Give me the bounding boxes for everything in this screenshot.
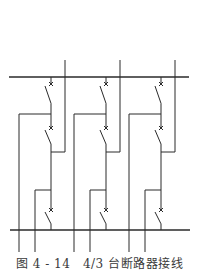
circuit-breaker-3 <box>100 203 108 230</box>
circuit-breaker-3 <box>155 203 163 230</box>
feeder-line-lower <box>145 190 161 252</box>
figure-caption: 图 4 - 14 4/3 台断路器接线 <box>0 257 199 271</box>
breaker-blade <box>45 130 51 144</box>
breaker-blade <box>100 212 106 224</box>
circuit-breaker-2 <box>100 121 108 152</box>
feeder-line-lower <box>90 190 106 252</box>
circuit-breaker-2 <box>155 121 163 152</box>
circuit-breaker-3 <box>45 203 53 230</box>
feeder-line-right <box>106 60 120 152</box>
feeder-line-lower <box>35 190 51 252</box>
breaker-blade <box>45 86 51 103</box>
buses <box>9 77 190 230</box>
breaker-blade <box>155 86 161 103</box>
circuit-breaker-2 <box>45 121 53 152</box>
bay-2 <box>74 60 120 252</box>
feeder-line-right <box>161 60 175 152</box>
breaker-blade <box>100 130 106 144</box>
feeder-line-right <box>51 60 65 152</box>
circuit-breaker-1 <box>155 77 163 114</box>
circuit-breaker-1 <box>45 77 53 114</box>
bay-3 <box>129 60 175 252</box>
breaker-blade <box>45 212 51 224</box>
breaker-blade <box>100 86 106 103</box>
breaker-blade <box>155 130 161 144</box>
bays <box>19 60 175 252</box>
breaker-scheme-diagram <box>0 0 199 271</box>
bay-1 <box>19 60 65 252</box>
circuit-breaker-1 <box>100 77 108 114</box>
breaker-blade <box>155 212 161 224</box>
